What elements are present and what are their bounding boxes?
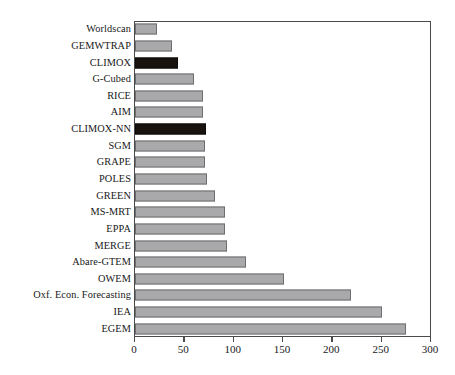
bar-row: RICE (0, 88, 455, 105)
bar (135, 273, 284, 284)
category-label: GRAPE (97, 157, 131, 167)
category-label: SGM (108, 141, 131, 151)
x-tick-label: 250 (372, 344, 389, 355)
category-label: Worldscan (86, 24, 131, 34)
category-label: MERGE (94, 240, 131, 250)
figure-container: WorldscanGEMWTRAPCLIMOXG-CubedRICEAIMCLI… (0, 0, 455, 375)
bar (135, 307, 382, 318)
x-tick-label: 100 (224, 344, 241, 355)
x-tick-label: 50 (178, 344, 189, 355)
x-axis: 050100150200250300 (134, 337, 431, 367)
bar (135, 157, 205, 168)
category-label: EPPA (106, 224, 131, 234)
category-label: Abare-GTEM (72, 257, 131, 267)
bar-row: CLIMOX-NN (0, 121, 455, 138)
bar (135, 223, 225, 234)
category-label: OWEM (98, 274, 131, 284)
bar (135, 290, 351, 301)
category-label: G-Cubed (93, 74, 131, 84)
x-tick (233, 337, 234, 342)
bar (135, 40, 172, 51)
bar-row: Oxf. Econ. Forecasting (0, 287, 455, 304)
bar (135, 240, 227, 251)
bar-row: MERGE (0, 237, 455, 254)
x-tick (430, 337, 431, 342)
category-label: POLES (99, 174, 131, 184)
bar-row: GRAPE (0, 154, 455, 171)
category-label: GREEN (96, 190, 131, 200)
category-label: Oxf. Econ. Forecasting (33, 290, 131, 300)
bar (135, 74, 194, 85)
bar (135, 257, 246, 268)
x-tick (183, 337, 184, 342)
bar-row: GREEN (0, 187, 455, 204)
x-tick-label: 0 (131, 344, 137, 355)
x-tick (331, 337, 332, 342)
category-label: RICE (107, 91, 131, 101)
x-tick-label: 300 (422, 344, 439, 355)
category-label: IEA (114, 307, 131, 317)
bar-row: Worldscan (0, 21, 455, 38)
bar (135, 207, 225, 218)
bar (135, 90, 203, 101)
bar-row: CLIMOX (0, 54, 455, 71)
bar-row: POLES (0, 171, 455, 188)
bar-row: EPPA (0, 221, 455, 238)
bar-row: EGEM (0, 320, 455, 337)
category-label: EGEM (101, 324, 131, 334)
category-label: GEMWTRAP (71, 41, 131, 51)
bar (135, 140, 205, 151)
bar (135, 107, 203, 118)
bar (135, 323, 406, 334)
bar-row: Abare-GTEM (0, 254, 455, 271)
bar-row: IEA (0, 304, 455, 321)
bar-row: SGM (0, 137, 455, 154)
bar-row: G-Cubed (0, 71, 455, 88)
bar-row: OWEM (0, 270, 455, 287)
bar (135, 24, 157, 35)
bar (135, 57, 178, 68)
bar-row: GEMWTRAP (0, 38, 455, 55)
category-label: CLIMOX-NN (71, 124, 131, 134)
bar-rows: WorldscanGEMWTRAPCLIMOXG-CubedRICEAIMCLI… (0, 21, 455, 337)
bar (135, 190, 215, 201)
category-label: CLIMOX (90, 57, 131, 67)
bar-row: AIM (0, 104, 455, 121)
x-tick (134, 337, 135, 342)
category-label: AIM (111, 107, 131, 117)
x-tick-label: 200 (323, 344, 340, 355)
bar (135, 124, 206, 135)
category-label: MS-MRT (90, 207, 131, 217)
bar (135, 173, 207, 184)
bar-row: MS-MRT (0, 204, 455, 221)
x-tick (282, 337, 283, 342)
x-tick-label: 150 (274, 344, 291, 355)
x-tick (381, 337, 382, 342)
